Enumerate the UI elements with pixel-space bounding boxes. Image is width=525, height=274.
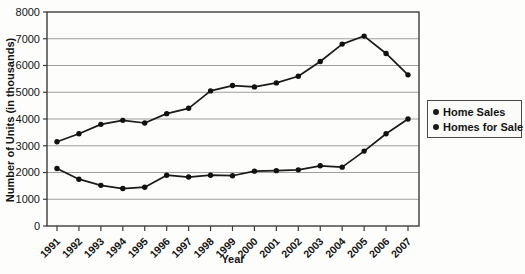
series-dot-icon bbox=[433, 124, 439, 130]
data-point-marker bbox=[405, 72, 410, 77]
data-point-marker bbox=[142, 120, 147, 125]
data-point-marker bbox=[405, 116, 410, 121]
data-point-marker bbox=[274, 168, 279, 173]
data-point-marker bbox=[120, 118, 125, 123]
data-point-marker bbox=[208, 88, 213, 93]
legend-item-homes-for-sale: Homes for Sale bbox=[433, 119, 516, 134]
data-point-marker bbox=[186, 174, 191, 179]
data-point-marker bbox=[339, 41, 344, 46]
series-dot-icon bbox=[433, 109, 439, 115]
data-point-marker bbox=[164, 172, 169, 177]
y-tick-label: 2000 bbox=[16, 166, 40, 178]
data-point-marker bbox=[76, 176, 81, 181]
data-point-marker bbox=[252, 84, 257, 89]
y-tick-label: 3000 bbox=[16, 140, 40, 152]
data-point-marker bbox=[54, 139, 59, 144]
data-point-marker bbox=[383, 51, 388, 56]
data-point-marker bbox=[186, 106, 191, 111]
data-point-marker bbox=[361, 148, 366, 153]
data-point-marker bbox=[120, 186, 125, 191]
legend: Home Sales Homes for Sale bbox=[427, 100, 522, 138]
y-tick-label: 5000 bbox=[16, 86, 40, 98]
legend-label: Homes for Sale bbox=[443, 121, 523, 133]
data-point-marker bbox=[164, 111, 169, 116]
data-point-marker bbox=[54, 166, 59, 171]
data-point-marker bbox=[296, 167, 301, 172]
y-tick-label: 0 bbox=[34, 220, 40, 232]
data-point-marker bbox=[339, 164, 344, 169]
y-tick-label: 1000 bbox=[16, 193, 40, 205]
x-axis-title: Year bbox=[47, 253, 419, 265]
data-point-marker bbox=[98, 122, 103, 127]
y-tick-label: 6000 bbox=[16, 59, 40, 71]
data-point-marker bbox=[361, 33, 366, 38]
data-point-marker bbox=[274, 80, 279, 85]
data-point-marker bbox=[208, 172, 213, 177]
y-tick-label: 4000 bbox=[16, 113, 40, 125]
data-point-marker bbox=[383, 131, 388, 136]
legend-label: Home Sales bbox=[443, 106, 505, 118]
data-point-marker bbox=[98, 183, 103, 188]
y-tick-label: 8000 bbox=[16, 6, 40, 18]
data-point-marker bbox=[296, 74, 301, 79]
data-point-marker bbox=[142, 185, 147, 190]
data-point-marker bbox=[318, 163, 323, 168]
y-tick-label: 7000 bbox=[16, 33, 40, 45]
data-point-marker bbox=[252, 168, 257, 173]
line-chart: 0100020003000400050006000700080001991199… bbox=[0, 0, 525, 274]
data-point-marker bbox=[76, 131, 81, 136]
data-point-marker bbox=[230, 173, 235, 178]
data-point-marker bbox=[318, 59, 323, 64]
legend-item-home-sales: Home Sales bbox=[433, 104, 516, 119]
y-axis-title: Number of Units (in thousands) bbox=[4, 10, 18, 230]
data-point-marker bbox=[230, 83, 235, 88]
